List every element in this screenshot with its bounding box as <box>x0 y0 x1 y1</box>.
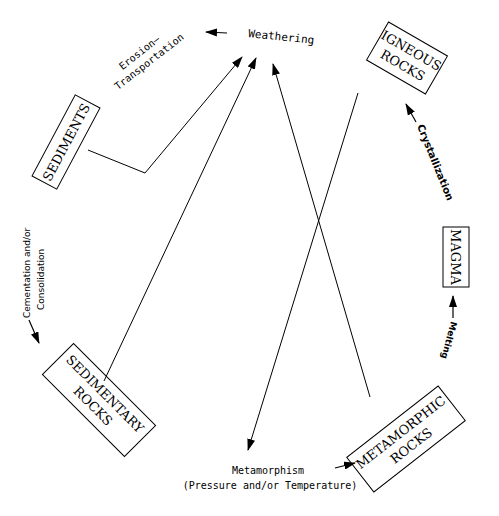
erosion-transportation-process: Erosion— Transportation <box>104 21 185 92</box>
melting-label: Melting <box>439 320 459 360</box>
metamorphic-rocks-node: METAMORPHIC ROCKS <box>347 386 465 492</box>
melting-process: Melting <box>439 296 459 360</box>
crystallization-arrow <box>406 104 416 122</box>
igneous-rocks-node: IGNEOUS ROCKS <box>367 22 448 94</box>
magma-node: MAGMA <box>443 227 469 287</box>
sedimentary-rocks-node: SEDIMENTARY ROCKS <box>42 343 155 456</box>
weathering-label: Weathering <box>248 27 315 47</box>
consolidation-label: Consolidation <box>36 249 46 310</box>
metamorphic-to-weathering-arrow <box>273 64 370 397</box>
sediments-node: SEDIMENTS <box>32 95 100 189</box>
cementation-arrow <box>29 320 39 343</box>
magma-label: MAGMA <box>448 229 463 285</box>
metamorphism-process: Metamorphism (Pressure and/or Temperatur… <box>183 463 358 491</box>
rock-cycle-diagram: Weathering Erosion— Transportation IGNEO… <box>0 0 499 516</box>
sedimentary-to-weathering-arrow <box>104 58 256 381</box>
weathering-arrow <box>206 32 227 33</box>
cementation-label: Cementation and/or <box>22 228 32 318</box>
igneous-to-metamorphism-arrow <box>248 93 358 450</box>
sediments-to-weathering-arrow <box>88 57 242 173</box>
cementation-process: Cementation and/or Consolidation <box>22 228 46 343</box>
metamorphism-arrow <box>335 463 355 468</box>
crystallization-label: Crystallization <box>415 123 456 203</box>
metamorphism-label: Metamorphism <box>232 465 304 476</box>
weathering-process: Weathering <box>206 27 315 47</box>
crystallization-process: Crystallization <box>406 104 456 202</box>
cycle-arrows <box>88 57 370 450</box>
metamorphism-conditions-label: (Pressure and/or Temperature) <box>183 480 358 491</box>
